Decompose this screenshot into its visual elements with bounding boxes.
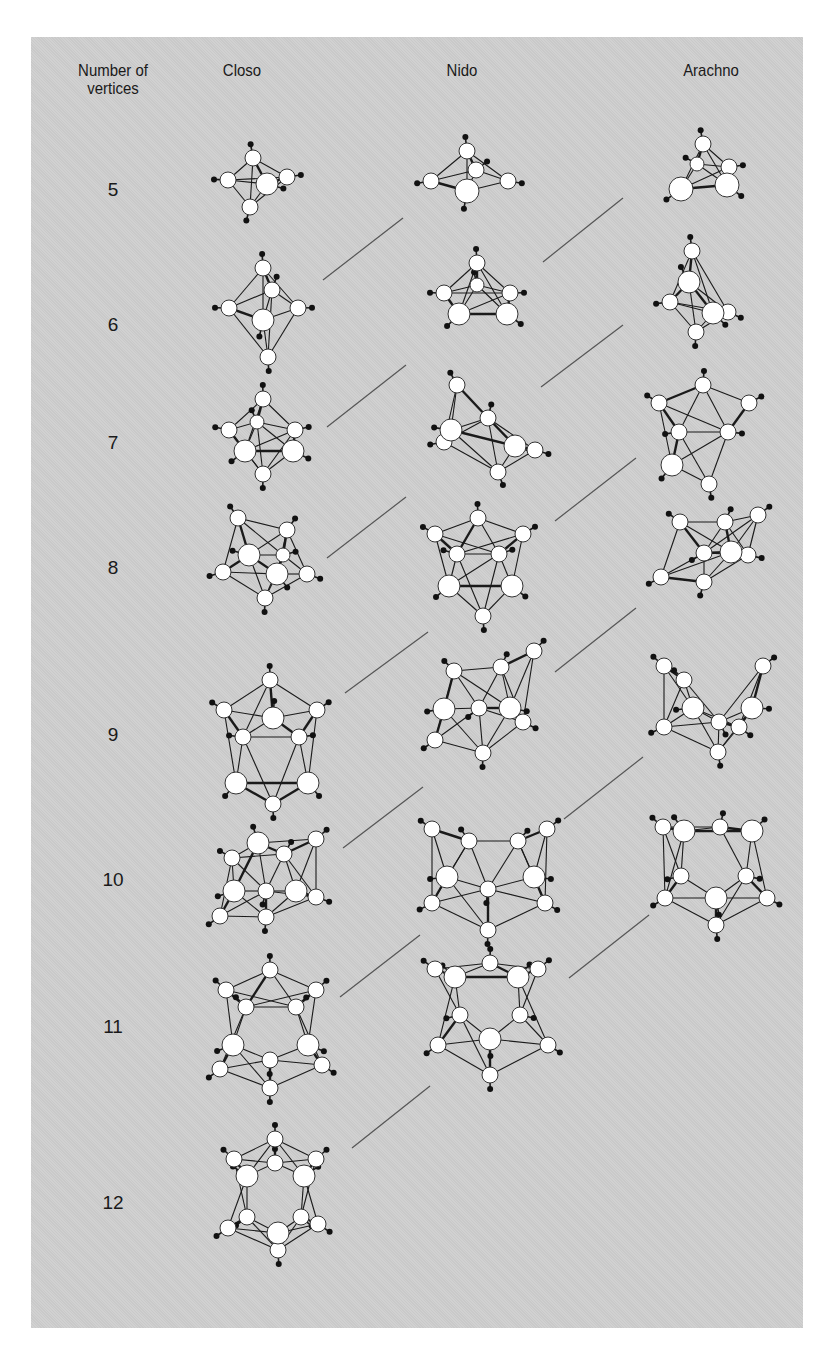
bond <box>663 827 665 898</box>
hydrogen-atom-icon <box>271 698 277 704</box>
hydrogen-atom-icon <box>738 193 744 199</box>
boron-atom-icon <box>308 1151 324 1167</box>
hydrogen-atom-icon <box>270 815 276 821</box>
boron-atom-icon <box>684 243 700 259</box>
boron-atom-icon <box>500 173 516 189</box>
hydrogen-atom-icon <box>324 1147 330 1153</box>
hydrogen-atom-icon <box>663 197 669 203</box>
boron-atom-icon <box>293 1209 309 1225</box>
boron-atom-icon <box>740 547 756 563</box>
hydrogen-atom-icon <box>267 953 273 959</box>
hydrogen-atom-icon <box>518 321 524 327</box>
hydrogen-atom-icon <box>650 903 656 909</box>
hydrogen-atom-icon <box>303 994 309 1000</box>
boron-atom-icon <box>539 821 555 837</box>
bond <box>270 1065 322 1088</box>
connector-line <box>564 757 643 819</box>
connector-line <box>543 198 623 262</box>
boron-atom-icon <box>440 419 462 441</box>
boron-atom-icon <box>276 548 290 562</box>
connector-line <box>323 218 403 280</box>
hydrogen-atom-icon <box>673 707 679 713</box>
bond <box>490 1045 548 1075</box>
boron-atom-icon <box>267 1131 283 1147</box>
hydrogen-atom-icon <box>649 815 655 821</box>
hydrogen-atom-icon <box>650 654 656 660</box>
boron-atom-icon <box>657 890 673 906</box>
hydrogen-atom-icon <box>541 638 547 644</box>
hydrogen-atom-icon <box>524 708 530 714</box>
hydrogen-atom-icon <box>293 549 299 555</box>
boron-atom-icon <box>288 999 304 1015</box>
cluster-nido-6 <box>427 246 527 329</box>
boron-atom-icon <box>262 672 278 688</box>
cluster-closo-11 <box>206 953 337 1105</box>
hydrogen-atom-icon <box>206 1074 212 1080</box>
hydrogen-atom-icon <box>521 290 527 296</box>
boron-atom-icon <box>287 422 303 438</box>
hydrogen-atom-icon <box>443 1015 449 1021</box>
boron-atom-icon <box>475 608 491 624</box>
boron-atom-icon <box>490 464 506 480</box>
bond <box>545 829 547 903</box>
hydrogen-atom-icon <box>431 425 437 431</box>
boron-atom-icon <box>221 300 237 316</box>
hydrogen-atom-icon <box>421 745 427 751</box>
hydrogen-atom-icon <box>653 301 659 307</box>
boron-atom-icon <box>427 526 443 542</box>
bond <box>432 903 488 930</box>
connector-line <box>345 632 428 693</box>
hydrogen-atom-icon <box>646 581 652 587</box>
boron-atom-icon <box>449 546 465 562</box>
hydrogen-atom-icon <box>722 322 728 328</box>
boron-atom-icon <box>452 1007 468 1023</box>
hydrogen-atom-icon <box>213 978 219 984</box>
hydrogen-atom-icon <box>504 651 510 657</box>
boron-atom-icon <box>527 442 543 458</box>
hydrogen-atom-icon <box>309 305 315 311</box>
bond <box>273 737 299 804</box>
boron-atom-icon <box>701 476 717 492</box>
hydrogen-atom-icon <box>671 814 677 820</box>
boron-atom-icon <box>491 546 507 562</box>
hydrogen-atom-icon <box>758 393 764 399</box>
hydrogen-atom-icon <box>759 555 765 561</box>
hydrogen-atom-icon <box>447 370 453 376</box>
hydrogen-atom-icon <box>659 475 665 481</box>
hydrogen-atom-icon <box>424 1050 430 1056</box>
cluster-arachno-6 <box>653 234 744 349</box>
boron-atom-icon <box>212 908 228 924</box>
boron-atom-icon <box>310 1216 326 1232</box>
hydrogen-atom-icon <box>207 573 213 579</box>
hydrogen-atom-icon <box>728 506 734 512</box>
connector-line <box>555 458 636 521</box>
boron-atom-icon <box>279 169 295 185</box>
hydrogen-atom-icon <box>427 876 433 882</box>
boron-atom-icon <box>720 424 736 440</box>
hydrogen-atom-icon <box>226 732 232 738</box>
hydrogen-atom-icon <box>284 585 290 591</box>
hydrogen-atom-icon <box>487 1053 493 1059</box>
boron-atom-icon <box>755 658 771 674</box>
boron-atom-icon <box>479 1028 501 1050</box>
hydrogen-atom-icon <box>260 902 266 908</box>
boron-atom-icon <box>711 714 727 730</box>
hydrogen-atom-icon <box>465 714 471 720</box>
hydrogen-atom-icon <box>222 793 228 799</box>
hydrogen-atom-icon <box>288 839 294 845</box>
boron-atom-icon <box>515 526 531 542</box>
cluster-closo-12 <box>214 1122 333 1267</box>
hydrogen-atom-icon <box>214 1233 220 1239</box>
boron-atom-icon <box>258 909 274 925</box>
hydrogen-atom-icon <box>545 451 551 457</box>
boron-atom-icon <box>695 136 711 152</box>
boron-atom-icon <box>656 658 672 674</box>
boron-atom-icon <box>293 1165 315 1187</box>
borane-cluster-diagram <box>0 0 840 1348</box>
hydrogen-atom-icon <box>420 524 426 530</box>
hydrogen-atom-icon <box>698 127 704 133</box>
boron-atom-icon <box>673 820 695 842</box>
hydrogen-atom-icon <box>771 654 777 660</box>
boron-atom-icon <box>267 1155 283 1171</box>
hydrogen-atom-icon <box>212 424 218 430</box>
